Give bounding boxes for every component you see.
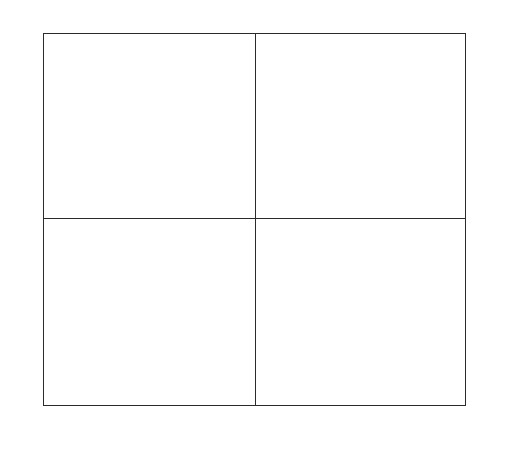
y-axis-line bbox=[255, 33, 256, 406]
scatter-plot bbox=[0, 0, 523, 450]
